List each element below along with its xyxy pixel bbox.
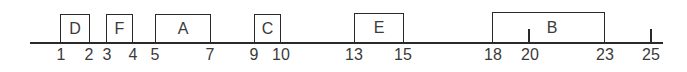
interval-label: C	[262, 21, 274, 37]
interval-label: B	[547, 20, 558, 36]
tick-label: 9	[250, 47, 259, 63]
tick-label: 2	[85, 47, 94, 63]
tick-label: 5	[151, 47, 160, 63]
tick-label: 15	[394, 47, 412, 63]
tick-label: 7	[206, 47, 215, 63]
interval-label: A	[178, 21, 189, 37]
tick-mark-20	[528, 29, 530, 43]
tick-label: 13	[345, 47, 363, 63]
interval-label: E	[374, 20, 385, 36]
tick-label: 20	[521, 47, 539, 63]
tick-label: 4	[129, 47, 138, 63]
interval-label: F	[115, 21, 125, 37]
tick-label: 10	[272, 47, 290, 63]
tick-mark-25	[650, 29, 652, 43]
tick-label: 23	[596, 47, 614, 63]
tick-label: 1	[57, 47, 66, 63]
tick-label: 3	[103, 47, 112, 63]
interval-label: D	[69, 21, 81, 37]
tick-label: 18	[484, 47, 502, 63]
tick-label: 25	[642, 47, 660, 63]
